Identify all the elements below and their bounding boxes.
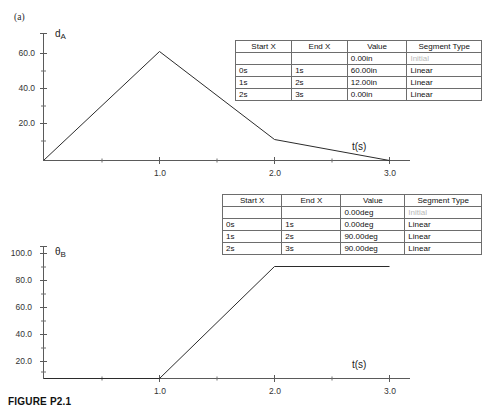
angle-data-line [44,267,390,379]
y-tick-label-60-bottom: 60.0 [2,302,32,312]
x-axis-label-bottom: t(s) [352,359,366,370]
y-tick-label-20-bottom: 20.0 [2,356,32,366]
y-tick-label-80-bottom: 80.0 [2,275,32,285]
figure-page: (a) 60.0 40.0 20.0 1.0 2.0 3.0 dA [0,0,482,416]
y-axis-subscript-b: B [61,250,66,259]
y-tick-label-40-bottom: 40.0 [2,329,32,339]
x-tick-label-3-bottom: 3.0 [375,386,405,396]
figure-caption: FIGURE P2.1 [8,396,71,407]
x-tick-label-2-bottom: 2.0 [260,386,290,396]
y-tick-label-100-bottom: 100.0 [2,248,32,258]
angle-chart-canvas [0,0,482,416]
y-axis-label-angle: θB [55,246,66,259]
x-tick-label-1-bottom: 1.0 [145,386,175,396]
